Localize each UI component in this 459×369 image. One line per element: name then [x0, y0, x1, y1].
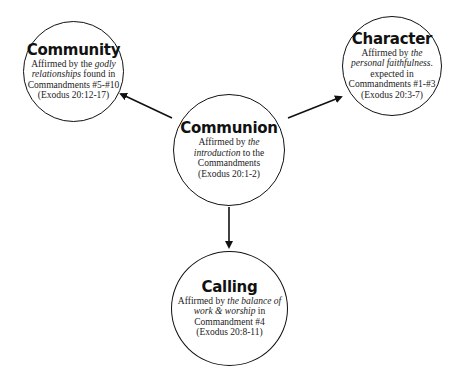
node-title: Communion	[180, 121, 277, 136]
node-description: Affirmed by the personal faithfulness. e…	[349, 48, 436, 101]
node-title: Calling	[202, 280, 258, 295]
arrow-to-community	[121, 94, 172, 118]
node-calling: Calling Affirmed by the balance of work …	[171, 251, 288, 366]
node-character: Character Affirmed by the personal faith…	[342, 16, 442, 116]
node-communion: Communion Affirmed by the introduction t…	[173, 94, 285, 206]
node-title: Community	[27, 43, 120, 58]
node-description: Affirmed by the introduction to the Comm…	[194, 137, 264, 179]
commandments-diagram: Community Affirmed by the godly relation…	[0, 0, 459, 369]
node-description: Affirmed by the balance of work & worshi…	[178, 296, 281, 338]
arrow-to-character	[288, 97, 341, 118]
node-description: Affirmed by the godly relationships foun…	[28, 59, 120, 101]
node-title: Character	[352, 32, 432, 47]
node-community: Community Affirmed by the godly relation…	[23, 21, 124, 122]
